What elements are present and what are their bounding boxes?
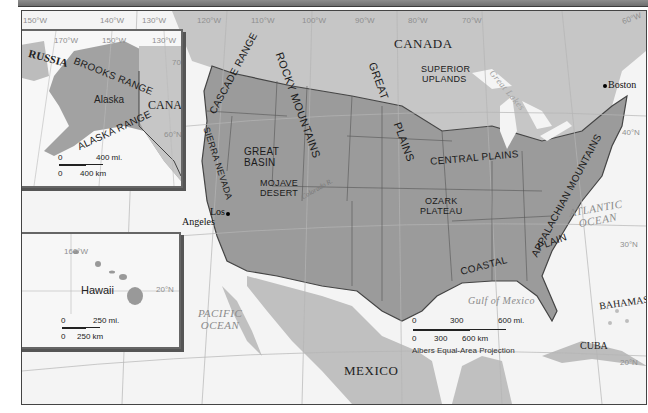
hawaii-scale-bar: 0 250 mi. 0 250 km bbox=[61, 316, 141, 346]
city-name: Boston bbox=[608, 79, 636, 90]
scale-km-600: 600 km bbox=[462, 334, 488, 343]
hawaii-inset: 160°W 20°N Hawaii 0 250 mi. 0 250 km bbox=[21, 232, 181, 349]
region-label-superior-2: UPLANDS bbox=[422, 75, 467, 84]
city-dot-icon bbox=[226, 212, 230, 216]
region-label-great-basin-2: BASIN bbox=[244, 158, 276, 168]
main-map: 150°W 140°W 130°W 120°W 110°W 100°W 90°W… bbox=[21, 10, 647, 405]
scale-mi-300: 300 bbox=[450, 316, 463, 325]
longitude-label: 90°W bbox=[355, 17, 375, 25]
alaska-grid-label: 130°W bbox=[152, 37, 176, 45]
title-bar bbox=[18, 0, 648, 7]
country-label-cuba: CUBA bbox=[580, 341, 608, 351]
hawaii-grid-label: 160°W bbox=[64, 248, 88, 256]
region-label-ozark-1: OZARK bbox=[425, 197, 458, 206]
city-label-boston: Boston bbox=[603, 80, 636, 90]
latitude-label: 40°N bbox=[622, 129, 640, 137]
longitude-label: 130°W bbox=[142, 17, 166, 25]
scale-km-0: 0 bbox=[412, 334, 416, 343]
alaska-inset: 170°W 150°W 130°W 70°N 60°N RUSSIA BROOK… bbox=[21, 29, 183, 188]
longitude-label: 120°W bbox=[197, 17, 221, 25]
longitude-label: 70°W bbox=[462, 17, 482, 25]
alaska-grid-label: 170°W bbox=[54, 37, 78, 45]
alaska-grid-label: 150°W bbox=[102, 37, 126, 45]
alaska-label-canada: CANADA bbox=[148, 99, 183, 111]
region-label-great-basin-1: GREAT bbox=[244, 147, 279, 157]
country-label-canada: CANADA bbox=[394, 37, 453, 50]
scale-km: 250 km bbox=[77, 332, 103, 341]
alaska-lat-label: 60°N bbox=[164, 131, 182, 139]
region-label-superior-1: SUPERIOR bbox=[421, 65, 470, 74]
country-label-mexico: MEXICO bbox=[344, 364, 398, 377]
alaska-scale-bar: 0 400 mi. 0 400 km bbox=[58, 153, 138, 183]
scale-km: 400 km bbox=[80, 169, 106, 178]
region-label-ozark-2: PLATEAU bbox=[420, 207, 462, 216]
longitude-label: 150°W bbox=[23, 17, 47, 25]
latitude-label: 20°N bbox=[620, 359, 638, 367]
scale-mi-600: 600 mi. bbox=[498, 316, 524, 325]
longitude-label: 100°W bbox=[302, 17, 326, 25]
city-label-los-angeles-2: Angeles bbox=[182, 217, 215, 227]
projection-label: Albers Equal-Area Projection bbox=[412, 346, 515, 355]
ocean-label-pacific: PACIFIC OCEAN bbox=[198, 308, 242, 331]
region-label-mojave-1: MOJAVE bbox=[260, 179, 298, 188]
hawaii-grid-label: 20°N bbox=[156, 286, 174, 294]
longitude-label: 140°W bbox=[100, 17, 124, 25]
city-dot-icon bbox=[603, 84, 607, 88]
scale-km-300: 300 bbox=[434, 334, 447, 343]
alaska-label-alaska: Alaska bbox=[94, 95, 124, 105]
longitude-label: 110°W bbox=[251, 17, 275, 25]
hawaii-label: Hawaii bbox=[81, 285, 114, 296]
water-label-gulf: Gulf of Mexico bbox=[468, 296, 535, 307]
alaska-lat-label: 70°N bbox=[172, 59, 183, 67]
scale-km-0: 0 bbox=[58, 169, 62, 178]
main-scale-bar: 0 300 600 mi. 0 300 600 km Albers Equal-… bbox=[412, 316, 542, 361]
scale-km-0: 0 bbox=[61, 332, 65, 341]
scale-mi-0: 0 bbox=[412, 316, 416, 325]
region-label-mojave-2: DESERT bbox=[260, 189, 298, 198]
longitude-label: 80°W bbox=[408, 17, 428, 25]
latitude-label: 30°N bbox=[620, 241, 638, 249]
